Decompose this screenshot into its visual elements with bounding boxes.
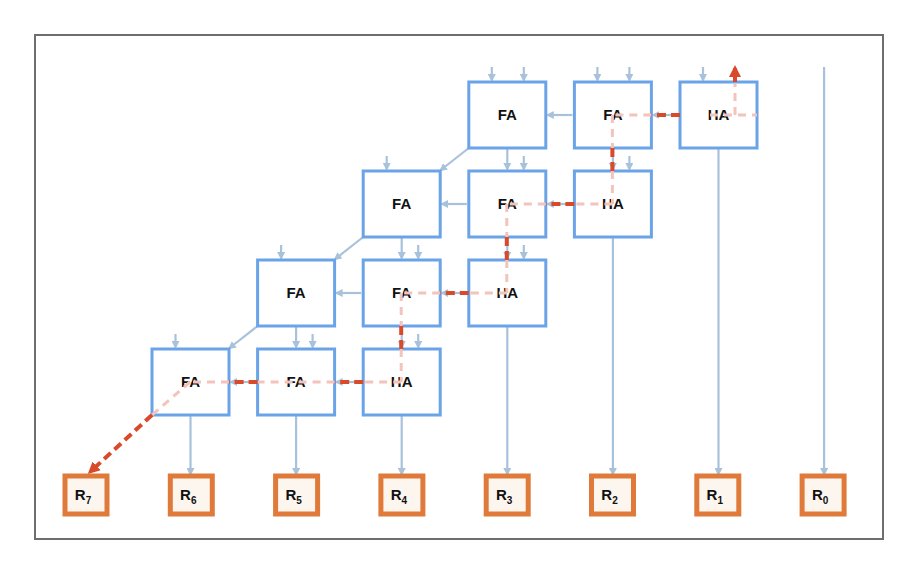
diagonal-carry-arrow (230, 326, 258, 348)
full-adder-block: FA (469, 82, 546, 148)
block-label: FA (392, 195, 411, 212)
critical-path-segment (90, 415, 152, 472)
result-bit-box: R1 (697, 476, 739, 514)
multiplier-diagram: FAFAHAFAFAHAFAFAHAFAFAHA R7R6R5R4R3R2R1R… (0, 0, 918, 563)
outputs-layer: R7R6R5R4R3R2R1R0 (65, 476, 844, 514)
result-bit-box: R4 (381, 476, 423, 514)
diagonal-carry-arrow (335, 237, 363, 259)
block-label: FA (287, 284, 306, 301)
result-bit-box: R5 (276, 476, 318, 514)
full-adder-block: FA (258, 260, 335, 326)
diagonal-carry-arrow (441, 148, 469, 170)
result-bit-box: R2 (592, 476, 634, 514)
result-bit-box: R3 (486, 476, 528, 514)
result-bit-box: R7 (65, 476, 107, 514)
full-adder-block: FA (363, 171, 440, 237)
result-bit-box: R0 (802, 476, 844, 514)
block-label: FA (498, 106, 517, 123)
blocks-layer: FAFAHAFAFAHAFAFAHAFAFAHA (152, 82, 757, 415)
full-adder-block: FA (258, 349, 335, 415)
result-bit-box: R6 (170, 476, 212, 514)
